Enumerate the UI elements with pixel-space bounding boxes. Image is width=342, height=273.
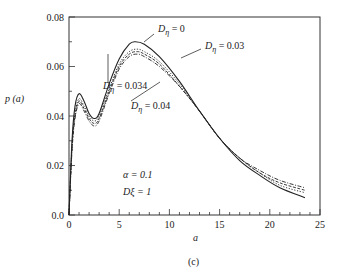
x-axis-ticks: 0510152025 [67,209,326,230]
figure-caption: (c) [188,256,199,268]
y-tick-label: 0.0 [52,210,65,221]
series-line-1 [69,49,305,215]
x-tick-label: 0 [67,219,72,230]
y-tick-label: 0.04 [47,111,65,122]
plot-frame [69,17,320,215]
y-tick-label: 0.08 [47,12,65,23]
y-axis-label: p (a) [4,93,25,105]
series-line-2 [69,52,305,215]
x-tick-label: 5 [117,219,122,230]
series-line-3 [69,54,305,215]
x-tick-label: 25 [315,219,325,230]
plot-curves [69,42,305,215]
series-label-1: Dη = 0.03 [204,40,244,54]
series-line-0 [69,42,305,215]
series-label-3: Dη = 0.04 [130,100,170,114]
x-tick-label: 15 [215,219,225,230]
y-tick-label: 0.02 [47,160,65,171]
series-label-0: Dη = 0 [157,23,185,37]
annotation-alpha: α = 0.1 [123,169,153,180]
series-labels: Dη = 0Dη = 0.03Dη = 0.034Dη = 0.04 [102,23,244,114]
y-axis-ticks: 0.00.020.040.060.08 [47,12,76,221]
y-tick-label: 0.06 [47,61,65,72]
line-chart: 0510152025 0.00.020.040.060.08 Dη = 0Dη … [0,0,342,273]
annotation-dxi: Dξ = 1 [122,186,151,198]
x-tick-label: 10 [164,219,174,230]
x-tick-label: 20 [265,219,275,230]
x-axis-label: a [193,232,198,243]
